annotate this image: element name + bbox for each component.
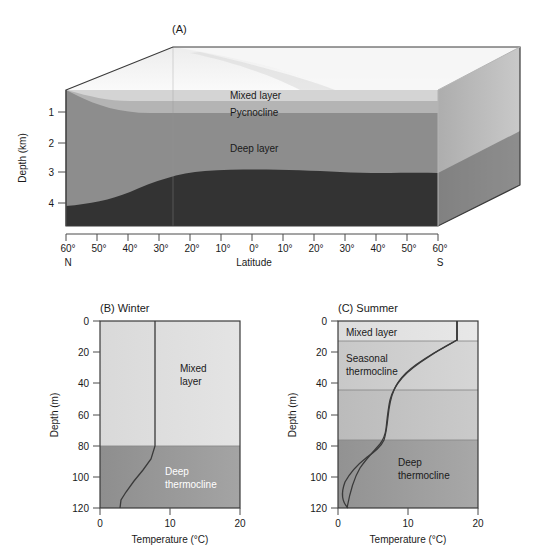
panel-b-label: (B) Winter [100, 302, 150, 314]
panel-b-x-axis-title: Temperature (°C) [132, 534, 209, 545]
panel-c-label-seasonal-1: Seasonal [346, 353, 388, 364]
depth-tick-1: 1 [48, 107, 54, 118]
panel-c-ytick-0: 0 [321, 316, 327, 327]
lat-tick-30s: 30° [339, 243, 354, 254]
panel-c-y-axis-title: Depth (m) [287, 393, 298, 437]
lat-tick-40n: 40° [122, 243, 137, 254]
depth-tick-2: 2 [48, 138, 54, 149]
lat-tick-60s: 60° [432, 243, 447, 254]
panel-b-y-axis-title: Depth (m) [49, 393, 60, 437]
panel-b-label-mixed-1: Mixed [180, 363, 207, 374]
lat-tick-30n: 30° [153, 243, 168, 254]
panel-b-ytick-40: 40 [78, 378, 90, 389]
panel-c-xtick-10: 10 [402, 518, 414, 529]
panel-c-ytick-60: 60 [316, 410, 328, 421]
lat-tick-20s: 20° [308, 243, 323, 254]
panel-c-label: (C) Summer [338, 302, 398, 314]
panel-b-deep-thermocline-band [100, 446, 240, 508]
panel-c-ytick-40: 40 [316, 378, 328, 389]
panel-c-label-deep-1: Deep [398, 457, 422, 468]
panel-b-xtick-20: 20 [234, 518, 246, 529]
lat-tick-10n: 10° [215, 243, 230, 254]
panel-c-ytick-80: 80 [316, 441, 328, 452]
figure-canvas: (A) Mixed layer Pycnocline Deep layer [0, 0, 533, 556]
panel-b-label-deep-2: thermocline [165, 479, 217, 490]
ocean-structure-figure: (A) Mixed layer Pycnocline Deep layer [0, 0, 533, 556]
depth-tick-3: 3 [48, 167, 54, 178]
hemisphere-south-label: S [437, 257, 444, 268]
panel-b-ytick-80: 80 [78, 441, 90, 452]
lat-tick-0: 0° [249, 243, 259, 254]
panel-b-ytick-120: 120 [72, 503, 89, 514]
panel-c-ytick-120: 120 [310, 503, 327, 514]
lat-tick-40s: 40° [370, 243, 385, 254]
panel-b-xtick-0: 0 [97, 518, 103, 529]
panel-b-label-mixed-2: layer [180, 376, 202, 387]
panel-a-latitude-axis-title: Latitude [236, 257, 272, 268]
panel-b-xtick-10: 10 [164, 518, 176, 529]
panel-c-label-seasonal-2: thermocline [346, 366, 398, 377]
layer-label-mixed: Mixed layer [230, 90, 282, 101]
panel-c-transition-band [338, 390, 478, 440]
panel-c-ytick-20: 20 [316, 347, 328, 358]
panel-b-ytick-60: 60 [78, 410, 90, 421]
lat-tick-10s: 10° [277, 243, 292, 254]
lat-tick-20n: 20° [184, 243, 199, 254]
panel-c-x-axis-title: Temperature (°C) [370, 534, 447, 545]
panel-b-ytick-20: 20 [78, 347, 90, 358]
panel-b-label-deep-1: Deep [165, 466, 189, 477]
panel-b-ytick-0: 0 [83, 316, 89, 327]
panel-c-xtick-20: 20 [472, 518, 484, 529]
panel-a-label: (A) [172, 23, 187, 35]
hemisphere-north-label: N [64, 257, 71, 268]
panel-c-xtick-0: 0 [335, 518, 341, 529]
panel-c-label-deep-2: thermocline [398, 470, 450, 481]
panel-c-ytick-100: 100 [310, 472, 327, 483]
lat-tick-50n: 50° [91, 243, 106, 254]
panel-c-label-mixed: Mixed layer [346, 327, 398, 338]
panel-b-mixed-layer-band [100, 321, 240, 446]
panel-b-ytick-100: 100 [72, 472, 89, 483]
lat-tick-50s: 50° [401, 243, 416, 254]
depth-tick-4: 4 [48, 198, 54, 209]
layer-label-pycnocline: Pycnocline [230, 107, 279, 118]
layer-label-deep: Deep layer [230, 143, 279, 154]
panel-a-depth-axis-title: Depth (km) [17, 133, 28, 182]
lat-tick-60n: 60° [60, 243, 75, 254]
